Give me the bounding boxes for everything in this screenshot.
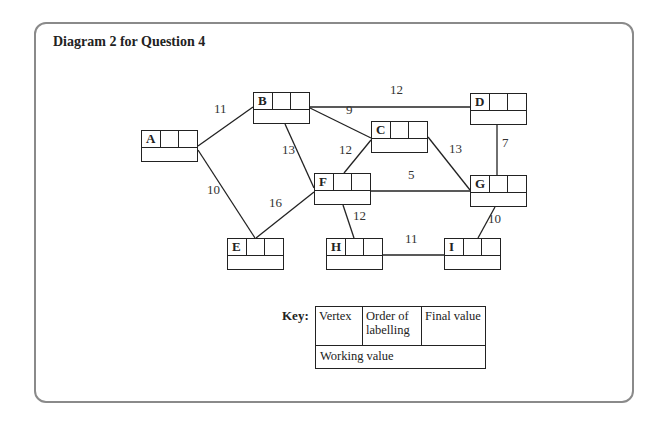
key-label: Key: [282,308,309,324]
weight-A-E: 10 [207,182,220,198]
vertex-C: C [371,121,428,153]
order-cell [490,94,509,110]
key-working: Working value [316,346,485,367]
final-value-cell [179,131,197,147]
vertex-label: E [228,239,247,255]
order-cell [391,122,410,138]
vertex-label: D [471,94,490,110]
key-box: Vertex Order of labelling Final value Wo… [315,306,486,369]
final-value-cell [482,239,500,255]
order-cell [247,239,266,255]
vertex-A: A [141,130,198,162]
weight-C-G: 13 [449,141,462,157]
vertex-label: F [315,174,334,190]
vertex-B: B [253,92,310,124]
final-value-cell [508,176,526,192]
weight-D-G: 7 [502,135,509,151]
final-value-cell [409,122,427,138]
vertex-I: I [444,238,501,270]
vertex-H: H [326,238,383,270]
vertex-D: D [470,93,527,125]
weight-H-I: 11 [405,231,418,247]
weight-C-F: 12 [339,142,352,158]
final-value-cell [265,239,283,255]
order-cell [464,239,483,255]
order-cell [161,131,180,147]
weight-B-F: 13 [282,142,295,158]
final-value-cell [508,94,526,110]
final-value-cell [364,239,382,255]
weight-F-G: 5 [408,167,415,183]
weight-F-H: 12 [353,208,366,224]
vertex-F: F [314,173,371,205]
vertex-E: E [227,238,284,270]
weight-E-F: 16 [269,195,282,211]
key-final: Final value [422,307,485,345]
final-value-cell [352,174,370,190]
key-order: Order of labelling [363,307,422,345]
vertex-label: G [471,176,490,192]
vertex-label: H [327,239,346,255]
vertex-G: G [470,175,527,207]
order-cell [346,239,365,255]
weight-G-I: 10 [488,211,501,227]
order-cell [273,93,292,109]
vertex-label: A [142,131,161,147]
edge-E-F [256,192,314,238]
final-value-cell [291,93,309,109]
weight-B-C: 9 [346,102,353,118]
vertex-label: C [372,122,391,138]
weight-A-B: 11 [214,101,227,117]
key-vertex: Vertex [316,307,363,345]
order-cell [490,176,509,192]
vertex-label: I [445,239,464,255]
edge-B-C [310,108,371,138]
vertex-label: B [254,93,273,109]
order-cell [334,174,353,190]
weight-B-D: 12 [390,82,403,98]
